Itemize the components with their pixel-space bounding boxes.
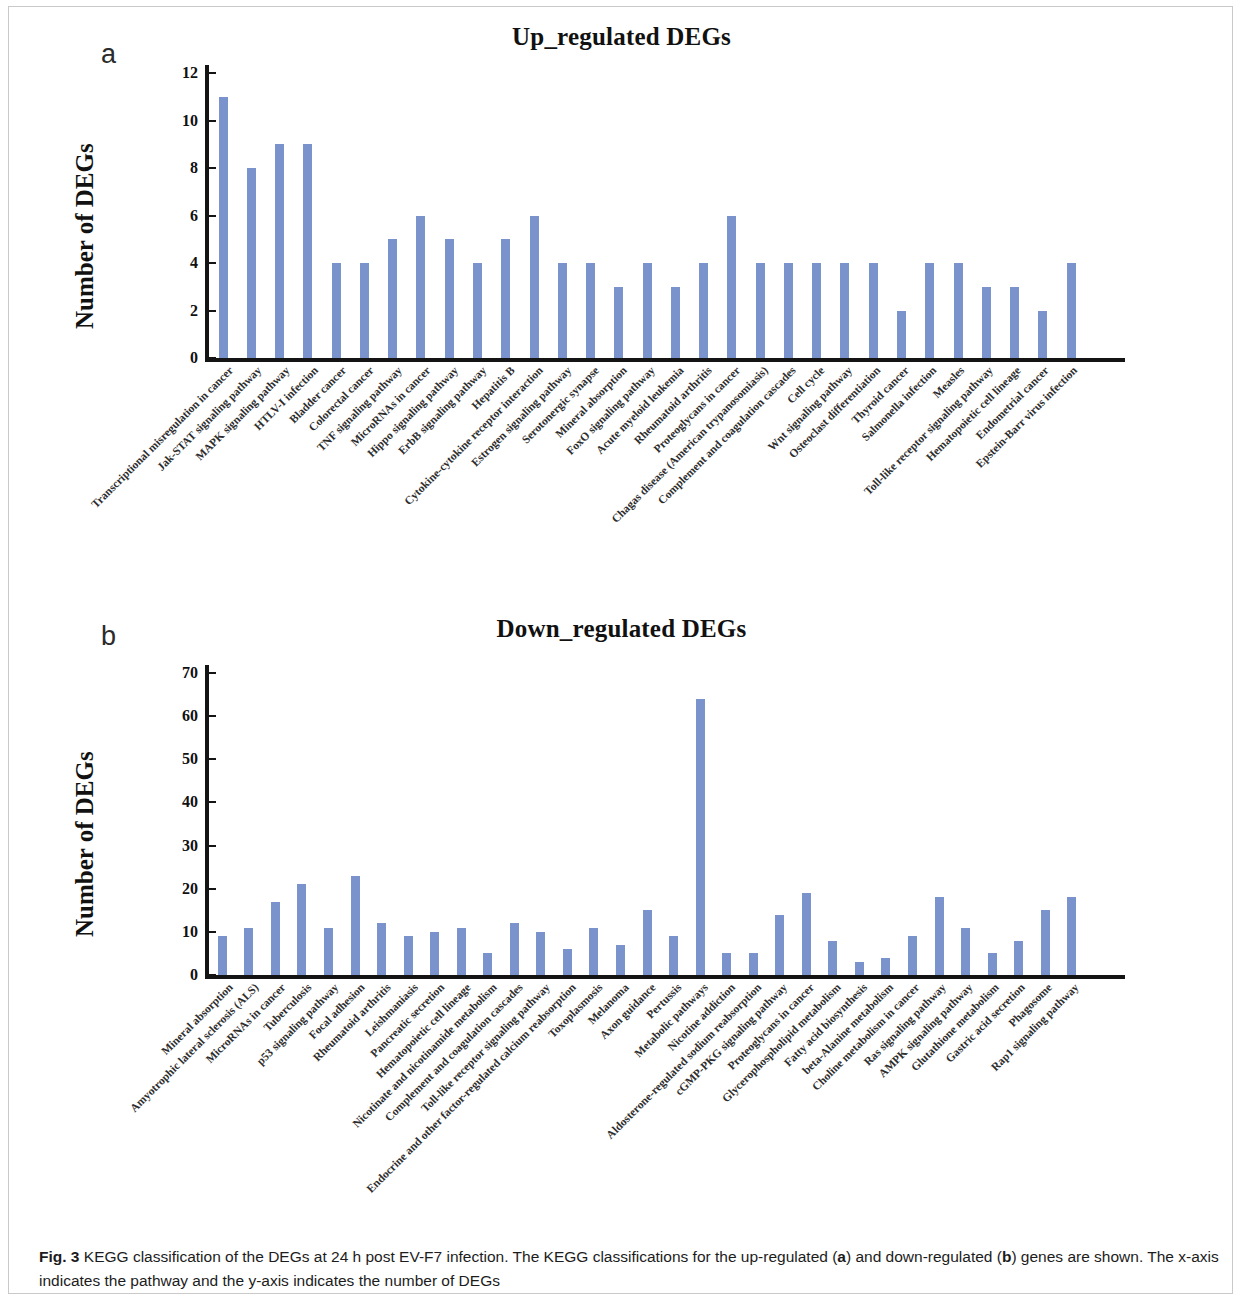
bar-slot[interactable]	[581, 673, 608, 975]
bar-slot[interactable]	[350, 73, 378, 358]
bar-slot[interactable]	[1059, 673, 1086, 975]
bar[interactable]	[722, 953, 731, 975]
bar[interactable]	[935, 897, 944, 975]
bar-slot[interactable]	[237, 73, 265, 358]
bar-slot[interactable]	[846, 673, 873, 975]
bar[interactable]	[351, 876, 360, 975]
bar-slot[interactable]	[379, 73, 407, 358]
bar-slot[interactable]	[944, 73, 972, 358]
bar[interactable]	[483, 953, 492, 975]
bar[interactable]	[297, 884, 306, 975]
bar[interactable]	[536, 932, 545, 975]
bar-slot[interactable]	[979, 673, 1006, 975]
bar[interactable]	[671, 287, 680, 358]
bar[interactable]	[430, 932, 439, 975]
bar-slot[interactable]	[746, 73, 774, 358]
bar[interactable]	[377, 923, 386, 975]
bar[interactable]	[563, 949, 572, 975]
bar[interactable]	[1067, 263, 1076, 358]
bar-slot[interactable]	[718, 73, 746, 358]
bar-slot[interactable]	[633, 73, 661, 358]
bar[interactable]	[404, 936, 413, 975]
bar[interactable]	[908, 936, 917, 975]
bar[interactable]	[982, 287, 991, 358]
bar[interactable]	[558, 263, 567, 358]
bar-slot[interactable]	[294, 73, 322, 358]
bar-slot[interactable]	[342, 673, 369, 975]
bar[interactable]	[473, 263, 482, 358]
bar[interactable]	[244, 928, 253, 975]
bar[interactable]	[275, 144, 284, 358]
bar[interactable]	[855, 962, 864, 975]
bar[interactable]	[445, 239, 454, 358]
bar-slot[interactable]	[793, 673, 820, 975]
bar-slot[interactable]	[266, 73, 294, 358]
bar[interactable]	[699, 263, 708, 358]
bar-slot[interactable]	[774, 73, 802, 358]
bar-slot[interactable]	[661, 73, 689, 358]
bar-slot[interactable]	[803, 73, 831, 358]
bar[interactable]	[988, 953, 997, 975]
bar-slot[interactable]	[368, 673, 395, 975]
bar-slot[interactable]	[820, 673, 847, 975]
bar[interactable]	[1014, 941, 1023, 976]
bar-slot[interactable]	[474, 673, 501, 975]
bar-slot[interactable]	[972, 73, 1000, 358]
bar-slot[interactable]	[607, 673, 634, 975]
bar[interactable]	[1038, 311, 1047, 359]
bar-slot[interactable]	[236, 673, 263, 975]
bar[interactable]	[1067, 897, 1076, 975]
bar[interactable]	[812, 263, 821, 358]
bar-slot[interactable]	[831, 73, 859, 358]
bar-slot[interactable]	[740, 673, 767, 975]
bar-slot[interactable]	[605, 73, 633, 358]
bar[interactable]	[897, 311, 906, 359]
bar[interactable]	[457, 928, 466, 975]
bar[interactable]	[271, 902, 280, 975]
bar[interactable]	[775, 915, 784, 975]
bar-slot[interactable]	[395, 673, 422, 975]
bar-slot[interactable]	[548, 73, 576, 358]
bar[interactable]	[416, 216, 425, 359]
bar-slot[interactable]	[1029, 73, 1057, 358]
bar[interactable]	[510, 923, 519, 975]
bar-slot[interactable]	[209, 73, 237, 358]
bar[interactable]	[869, 263, 878, 358]
bar-slot[interactable]	[859, 73, 887, 358]
bar-slot[interactable]	[322, 73, 350, 358]
bar[interactable]	[303, 144, 312, 358]
bar[interactable]	[669, 936, 678, 975]
bar-slot[interactable]	[1032, 673, 1059, 975]
bar-slot[interactable]	[916, 73, 944, 358]
bar-slot[interactable]	[492, 73, 520, 358]
bar[interactable]	[616, 945, 625, 975]
bar-slot[interactable]	[952, 673, 979, 975]
bar[interactable]	[360, 263, 369, 358]
bar-slot[interactable]	[1005, 673, 1032, 975]
bar-slot[interactable]	[1000, 73, 1028, 358]
bar-slot[interactable]	[435, 73, 463, 358]
bar-slot[interactable]	[289, 673, 316, 975]
bar-slot[interactable]	[926, 673, 953, 975]
bar[interactable]	[954, 263, 963, 358]
bar-slot[interactable]	[687, 673, 714, 975]
bar-slot[interactable]	[501, 673, 528, 975]
bar[interactable]	[589, 928, 598, 975]
bar[interactable]	[925, 263, 934, 358]
bar[interactable]	[1010, 287, 1019, 358]
bar-slot[interactable]	[421, 673, 448, 975]
bar[interactable]	[247, 168, 256, 358]
bar[interactable]	[643, 910, 652, 975]
bar[interactable]	[332, 263, 341, 358]
bar[interactable]	[388, 239, 397, 358]
bar-slot[interactable]	[262, 673, 289, 975]
bar[interactable]	[696, 699, 705, 975]
bar-slot[interactable]	[766, 673, 793, 975]
bar[interactable]	[756, 263, 765, 358]
bar-slot[interactable]	[690, 73, 718, 358]
bar-slot[interactable]	[554, 673, 581, 975]
bar[interactable]	[727, 216, 736, 359]
bar[interactable]	[961, 928, 970, 975]
bar-slot[interactable]	[576, 73, 604, 358]
bar-slot[interactable]	[407, 73, 435, 358]
